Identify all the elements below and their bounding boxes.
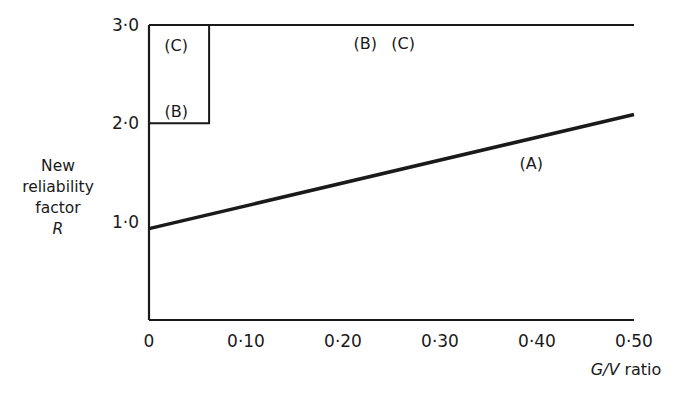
- x-tick-label: 0·20: [324, 331, 362, 351]
- series-annotation: (C): [164, 36, 188, 55]
- x-tick-label: 0: [144, 331, 155, 351]
- y-axis-label-line: R: [53, 220, 64, 238]
- x-tick-label: 0·50: [615, 331, 653, 351]
- series-annotations: (C)(B)(B)(C)(A): [164, 34, 543, 173]
- x-tick-label: 0·30: [421, 331, 459, 351]
- series-annotation: (C): [391, 34, 415, 53]
- y-tick-label: 3·0: [112, 15, 139, 35]
- tick-labels: 00·100·200·300·400·501·02·03·0: [112, 15, 653, 351]
- chart: 00·100·200·300·400·501·02·03·0 (C)(B)(B)…: [0, 0, 682, 396]
- series-lines: [149, 25, 634, 229]
- series-annotation: (B): [354, 34, 377, 53]
- y-tick-label: 1·0: [112, 212, 139, 232]
- series-annotation: (A): [519, 154, 542, 173]
- y-axis-label-line: factor: [35, 199, 81, 217]
- series-line-a: [149, 115, 634, 229]
- x-axis-label: G/V ratio: [591, 360, 662, 379]
- x-tick-label: 0·10: [227, 331, 265, 351]
- y-axis-label-line: reliability: [22, 178, 94, 196]
- x-tick-label: 0·40: [518, 331, 556, 351]
- series-annotation: (B): [164, 102, 187, 121]
- y-tick-label: 2·0: [112, 113, 139, 133]
- y-axis-label-line: New: [41, 157, 75, 175]
